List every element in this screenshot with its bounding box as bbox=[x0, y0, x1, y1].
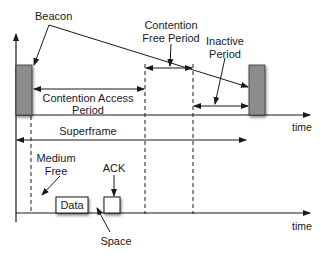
beacon-block-right bbox=[249, 65, 265, 115]
ack-frame-box bbox=[104, 197, 120, 213]
medium-free-label-line2: Free bbox=[45, 165, 68, 177]
beacon-pointer-left bbox=[34, 25, 49, 65]
inactive-label-line2: Period bbox=[209, 48, 241, 60]
cap-label-line2: Period bbox=[72, 104, 104, 116]
inactive-label-line1: Inactive bbox=[206, 35, 244, 47]
medium-free-pointer bbox=[42, 176, 60, 195]
superframe-label: Superframe bbox=[59, 125, 116, 137]
cfp-label-line2: Free Period bbox=[142, 32, 199, 44]
beacon-block-left bbox=[16, 65, 32, 115]
cap-label-line1: Contention Access bbox=[42, 92, 134, 104]
superframe-diagram: Beacon Contention Free Period Inactive P… bbox=[0, 0, 324, 259]
beacon-label: Beacon bbox=[35, 10, 72, 22]
cfp-label-line1: Contention bbox=[144, 19, 197, 31]
medium-free-label-line1: Medium bbox=[36, 152, 75, 164]
inactive-pointer bbox=[215, 58, 225, 104]
time-label-bottom: time bbox=[292, 220, 312, 232]
time-label-top: time bbox=[292, 121, 312, 133]
ack-label: ACK bbox=[103, 162, 126, 174]
data-frame-label: Data bbox=[60, 199, 84, 211]
space-label: Space bbox=[100, 235, 131, 247]
